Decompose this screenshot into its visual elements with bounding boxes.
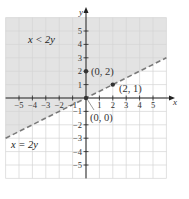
x-tick-label: 2 [111, 100, 115, 110]
point-marker [84, 69, 88, 73]
y-tick-label: −3 [73, 133, 82, 143]
y-tick-label: −2 [73, 120, 82, 130]
x-tick-label: 4 [137, 100, 142, 110]
x-tick-label: 5 [151, 100, 155, 110]
x-tick-label: −5 [14, 100, 23, 110]
point-label-0-2: (0, 2) [91, 66, 114, 78]
x-tick-label: −2 [55, 100, 64, 110]
y-tick-label: −4 [73, 147, 83, 157]
x-tick-label: 3 [124, 100, 128, 110]
y-tick-label: −5 [73, 160, 82, 170]
y-axis-arrow-icon [84, 7, 89, 13]
x-tick-label: −3 [41, 100, 50, 110]
boundary-equation-label: x = 2y [10, 139, 38, 150]
point-label-0-0: (0, 0) [90, 112, 113, 124]
x-axis-label: x [172, 97, 177, 107]
y-axis-label: y [78, 7, 83, 17]
x-tick-label: −4 [28, 100, 38, 110]
y-tick-label: 2 [78, 66, 82, 76]
y-tick-label: 3 [78, 53, 82, 63]
y-tick-label: −1 [73, 106, 82, 116]
y-tick-label: 5 [78, 26, 82, 36]
point-marker [111, 82, 115, 86]
inequality-graph: −5−4−3−2−11234554321−1−2−3−4−5 y x x < 2… [0, 0, 189, 199]
origin-leader-line [87, 99, 94, 110]
y-tick-label: 1 [78, 80, 82, 90]
x-tick-label: 1 [97, 100, 101, 110]
inequality-label: x < 2y [27, 34, 55, 45]
point-label-2-1: (2, 1) [119, 83, 142, 95]
